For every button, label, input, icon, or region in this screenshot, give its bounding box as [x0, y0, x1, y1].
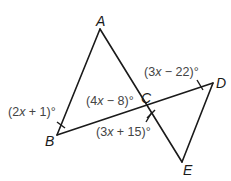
vertex-label-E: E: [183, 162, 193, 178]
vertex-label-D: D: [216, 75, 226, 91]
vertex-label-B: B: [45, 133, 54, 149]
angle-leader-C: [146, 112, 152, 122]
segment-DE: [182, 83, 213, 162]
geometry-diagram: A B C D E (2x + 1)° (4x − 8)° (3x + 15)°…: [0, 0, 231, 181]
angle-label-DCE: (3x + 15)°: [96, 125, 151, 139]
vertex-label-A: A: [95, 13, 105, 29]
segment-AB: [57, 29, 100, 135]
angle-label-D: (3x − 22)°: [144, 65, 199, 79]
angle-label-B: (2x + 1)°: [8, 105, 56, 119]
angle-label-ACB: (4x − 8)°: [86, 94, 134, 108]
vertex-label-C: C: [141, 90, 152, 106]
